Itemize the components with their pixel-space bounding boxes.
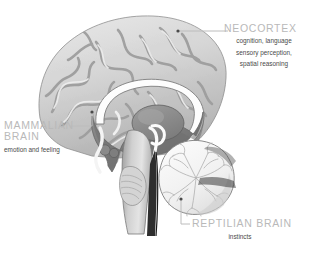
reptilian-anchor-dot	[179, 197, 182, 200]
reptilian-heading: REPTILIAN BRAIN	[192, 218, 292, 229]
mammalian-heading-line-2: BRAIN	[4, 131, 74, 142]
thalamus-highlight	[138, 109, 164, 125]
illustration-canvas: NEOCORTEX cognition, language sensory pe…	[0, 0, 310, 258]
neocortex-description-line-3: spatial reasoning	[224, 60, 304, 69]
neocortex-label: NEOCORTEX cognition, language sensory pe…	[224, 23, 304, 69]
mammalian-anchor-dot	[90, 110, 93, 113]
brainstem-group	[120, 126, 165, 236]
pons	[120, 166, 147, 205]
neocortex-description-line-1: cognition, language	[224, 37, 304, 46]
neocortex-anchor-dot	[176, 29, 179, 32]
mammillary-body-lower	[109, 148, 118, 157]
reptilian-description: instincts	[192, 233, 288, 242]
mammalian-brain-label: MAMMALIAN BRAIN emotion and feeling	[4, 120, 74, 155]
mammalian-description: emotion and feeling	[4, 146, 74, 155]
reptilian-brain-label: REPTILIAN BRAIN instincts	[192, 218, 292, 242]
neocortex-description-line-2: sensory perception,	[224, 49, 304, 58]
neocortex-heading: NEOCORTEX	[224, 23, 304, 34]
